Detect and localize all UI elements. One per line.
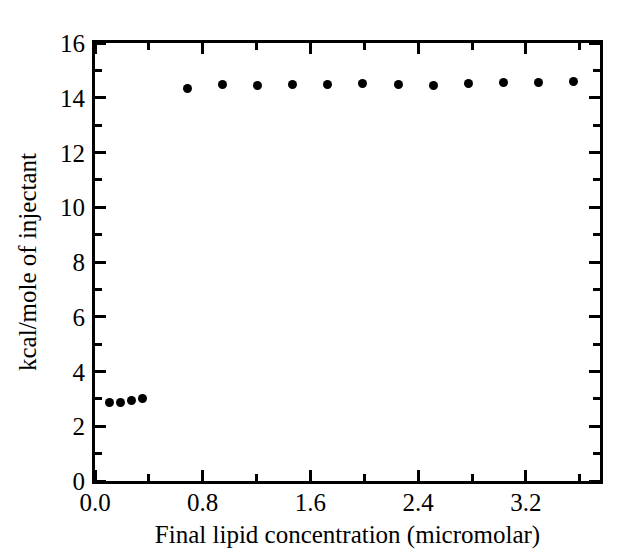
x-tick-minor-top — [578, 43, 581, 50]
x-tick-major — [417, 470, 420, 481]
y-tick-major — [95, 480, 106, 483]
y-tick-minor — [95, 69, 102, 72]
y-tick-minor-right — [593, 397, 600, 400]
y-tick-major-right — [589, 425, 600, 428]
x-tick-minor — [255, 474, 258, 481]
x-tick-major — [309, 470, 312, 481]
x-tick-minor — [363, 474, 366, 481]
y-tick-major — [95, 425, 106, 428]
data-point — [116, 398, 125, 407]
plot-frame: 02468101214160.00.81.62.43.2 — [92, 40, 603, 484]
x-tick-minor-top — [471, 43, 474, 50]
y-tick-major — [95, 42, 106, 45]
y-tick-major-right — [589, 261, 600, 264]
x-tick-label: 3.2 — [510, 490, 541, 515]
data-point — [183, 84, 192, 93]
y-tick-minor-right — [593, 124, 600, 127]
x-tick-major-top — [201, 43, 204, 54]
x-tick-label: 1.6 — [295, 490, 326, 515]
y-tick-major-right — [589, 151, 600, 154]
data-point — [429, 81, 438, 90]
data-point — [499, 78, 508, 87]
y-tick-major — [95, 96, 106, 99]
x-tick-major-top — [309, 43, 312, 54]
x-tick-minor — [471, 474, 474, 481]
y-tick-minor-right — [593, 69, 600, 72]
y-tick-label: 16 — [60, 31, 85, 56]
y-tick-minor-right — [593, 343, 600, 346]
y-tick-label: 10 — [60, 195, 85, 220]
x-tick-label: 2.4 — [403, 490, 434, 515]
y-tick-minor-right — [593, 233, 600, 236]
data-point — [138, 394, 147, 403]
x-tick-label: 0.8 — [187, 490, 218, 515]
y-tick-minor-right — [593, 452, 600, 455]
y-tick-minor — [95, 124, 102, 127]
data-point — [534, 78, 543, 87]
y-tick-major — [95, 261, 106, 264]
y-tick-label: 14 — [60, 85, 85, 110]
y-tick-label: 12 — [60, 140, 85, 165]
y-tick-minor — [95, 452, 102, 455]
y-tick-label: 4 — [73, 359, 86, 384]
y-tick-major-right — [589, 42, 600, 45]
chart-figure: 02468101214160.00.81.62.43.2 Final lipid… — [0, 0, 629, 557]
y-tick-major-right — [589, 315, 600, 318]
y-tick-major — [95, 370, 106, 373]
x-tick-label: 0.0 — [79, 490, 110, 515]
data-point — [358, 79, 367, 88]
x-tick-major — [524, 470, 527, 481]
x-tick-minor — [578, 474, 581, 481]
y-tick-minor — [95, 288, 102, 291]
y-tick-label: 2 — [73, 414, 86, 439]
y-tick-major — [95, 151, 106, 154]
y-tick-minor — [95, 397, 102, 400]
y-tick-major-right — [589, 370, 600, 373]
x-axis-title: Final lipid concentration (micromolar) — [92, 521, 603, 549]
data-point — [253, 81, 262, 90]
y-tick-major-right — [589, 206, 600, 209]
y-tick-minor — [95, 343, 102, 346]
x-tick-minor — [147, 474, 150, 481]
data-point — [218, 80, 227, 89]
y-tick-minor — [95, 233, 102, 236]
x-tick-major-top — [94, 43, 97, 54]
x-tick-minor-top — [147, 43, 150, 50]
data-point — [323, 80, 332, 89]
y-tick-minor — [95, 178, 102, 181]
x-tick-major-top — [417, 43, 420, 54]
y-tick-major — [95, 315, 106, 318]
x-tick-major-top — [524, 43, 527, 54]
data-point — [288, 80, 297, 89]
x-tick-minor-top — [255, 43, 258, 50]
y-tick-major — [95, 206, 106, 209]
data-point — [127, 396, 136, 405]
x-tick-minor-top — [363, 43, 366, 50]
y-tick-major-right — [589, 96, 600, 99]
y-tick-label: 8 — [73, 250, 86, 275]
x-tick-major — [94, 470, 97, 481]
y-tick-minor-right — [593, 178, 600, 181]
y-axis-title: kcal/mole of injectant — [14, 40, 50, 484]
y-tick-major-right — [589, 480, 600, 483]
plot-area: 02468101214160.00.81.62.43.2 — [95, 43, 600, 481]
data-point — [464, 79, 473, 88]
y-tick-label: 6 — [73, 304, 86, 329]
y-tick-minor-right — [593, 288, 600, 291]
data-point — [569, 77, 578, 86]
x-tick-major — [201, 470, 204, 481]
data-point — [394, 80, 403, 89]
data-point — [105, 398, 114, 407]
